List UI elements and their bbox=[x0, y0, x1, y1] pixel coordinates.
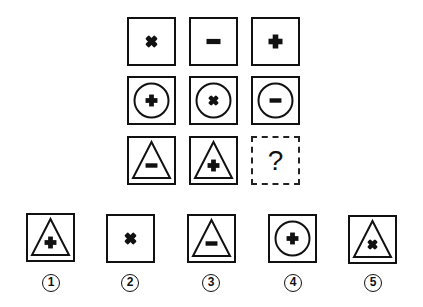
cell-glyph-icon bbox=[191, 138, 236, 183]
option-4-label: 4 bbox=[284, 274, 302, 292]
cell-glyph-icon bbox=[129, 19, 174, 64]
cell-glyph-icon bbox=[253, 19, 298, 64]
option-4[interactable] bbox=[268, 214, 317, 263]
grid-cell-2-1 bbox=[127, 76, 176, 125]
triangle-frame-icon bbox=[354, 221, 391, 257]
cell-glyph-icon bbox=[108, 216, 153, 261]
minus-icon bbox=[270, 98, 282, 102]
option-2-label: 2 bbox=[121, 274, 139, 292]
grid-cell-1-2 bbox=[189, 17, 238, 66]
plus-icon bbox=[45, 237, 57, 249]
option-3[interactable] bbox=[187, 214, 236, 263]
cell-glyph-icon bbox=[191, 78, 236, 123]
cross-icon bbox=[142, 32, 160, 50]
cell-glyph-icon bbox=[129, 78, 174, 123]
grid-cell-3-1 bbox=[127, 136, 176, 185]
option-1[interactable] bbox=[26, 213, 75, 262]
cell-glyph-icon bbox=[350, 217, 395, 262]
cell-glyph-icon bbox=[191, 19, 236, 64]
cell-glyph-icon bbox=[253, 78, 298, 123]
grid-cell-3-2 bbox=[189, 136, 238, 185]
grid-cell-2-3 bbox=[251, 76, 300, 125]
cross-icon bbox=[365, 237, 381, 253]
plus-icon bbox=[208, 160, 220, 172]
grid-cell-unknown: ? bbox=[251, 136, 300, 185]
triangle-frame-icon bbox=[193, 220, 230, 256]
plus-icon bbox=[269, 35, 283, 49]
minus-icon bbox=[207, 39, 221, 44]
minus-icon bbox=[206, 241, 218, 245]
cell-glyph-icon bbox=[189, 216, 234, 261]
question-mark: ? bbox=[253, 138, 298, 183]
grid-cell-1-1 bbox=[127, 17, 176, 66]
minus-icon bbox=[146, 163, 158, 167]
grid-cell-2-2 bbox=[189, 76, 238, 125]
option-1-label: 1 bbox=[42, 274, 60, 292]
cross-icon bbox=[206, 93, 222, 109]
cell-glyph-icon bbox=[270, 216, 315, 261]
plus-icon bbox=[146, 95, 158, 107]
cell-glyph-icon bbox=[28, 215, 73, 260]
cell-glyph-icon bbox=[129, 138, 174, 183]
option-5-label: 5 bbox=[364, 274, 382, 292]
cross-icon bbox=[121, 229, 139, 247]
triangle-frame-icon bbox=[133, 142, 170, 178]
option-2[interactable] bbox=[106, 214, 155, 263]
option-5[interactable] bbox=[348, 215, 397, 264]
plus-icon bbox=[287, 233, 299, 245]
grid-cell-1-3 bbox=[251, 17, 300, 66]
option-3-label: 3 bbox=[202, 274, 220, 292]
